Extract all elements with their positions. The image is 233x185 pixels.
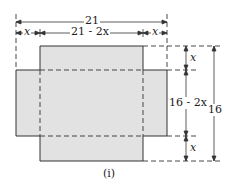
diagram-graphics: [0, 0, 233, 185]
right-flap-label: x: [151, 26, 159, 38]
inner-width-label: 21 - 2x: [70, 26, 110, 38]
net-shape: [16, 46, 167, 161]
bottom-flap-label: x: [189, 142, 197, 154]
box-net-diagram: 21 x 21 - 2x x x 16 - 2x x 16 (i): [0, 0, 233, 185]
figure-caption: (i): [102, 168, 116, 180]
left-flap-label: x: [23, 26, 31, 38]
total-height-label: 16: [207, 104, 223, 116]
top-flap-label: x: [189, 52, 197, 64]
inner-height-label: 16 - 2x: [168, 97, 208, 109]
